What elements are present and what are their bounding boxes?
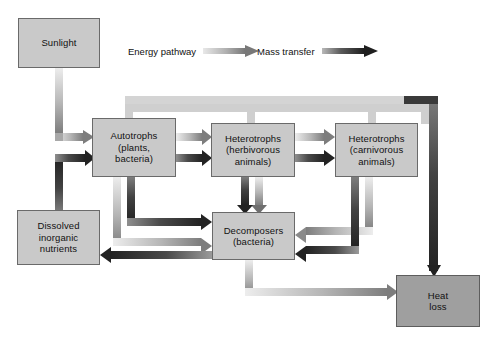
node-herbivores-line-0: Heterotrophs xyxy=(225,133,281,145)
arrow-autotrophs-to-herbivores-energy xyxy=(176,129,212,145)
arrow-herbivores-to-carnivores-energy xyxy=(295,129,335,145)
node-nutrients-line-1: inorganic xyxy=(39,232,78,244)
arrow-autotrophs-to-herbivores-mass xyxy=(176,150,212,166)
node-nutrients-line-0: Dissolved xyxy=(37,220,79,232)
node-decomposers[interactable]: Decomposers (bacteria) xyxy=(212,212,295,260)
node-sunlight-line-0: Sunlight xyxy=(41,37,76,49)
arrow-herbivores-energy-riser xyxy=(247,104,255,124)
node-heat-loss[interactable]: Heat loss xyxy=(396,275,480,327)
node-autotrophs-line-2: bacteria) xyxy=(115,153,153,165)
arrow-sunlight-to-autotrophs xyxy=(55,68,94,144)
legend-mass-arrow-icon xyxy=(322,44,380,58)
legend-mass-transfer: Mass transfer xyxy=(257,44,380,58)
node-heterotrophs-herbivorous[interactable]: Heterotrophs (herbivorous animals) xyxy=(211,123,295,177)
node-sunlight[interactable]: Sunlight xyxy=(18,18,100,68)
node-decomposers-line-1: (bacteria) xyxy=(233,236,274,248)
arrow-carnivores-to-decomposers-mass xyxy=(295,177,359,262)
ecosystem-energy-flow-diagram: Sunlight Autotrophs (plants, bacteria) H… xyxy=(0,0,490,348)
arrow-herbivores-to-decomposers-mass xyxy=(237,177,253,214)
arrow-decomposers-to-heatloss-energy xyxy=(245,260,398,300)
node-heatloss-line-1: loss xyxy=(429,301,446,313)
arrow-herbivores-to-carnivores-mass xyxy=(295,150,335,166)
top-energy-bus xyxy=(125,96,438,104)
node-nutrients-line-2: nutrients xyxy=(40,243,77,255)
legend-energy-label: Energy pathway xyxy=(128,46,196,57)
arrow-autotrophs-to-decomposers-mass xyxy=(127,177,212,230)
arrow-nutrients-to-autotrophs-mass xyxy=(55,150,95,212)
arrow-carnivores-to-decomposers-energy xyxy=(295,177,373,243)
node-autotrophs-line-0: Autotrophs xyxy=(111,130,158,142)
node-heterotrophs-carnivorous[interactable]: Heterotrophs (carnivorous animals) xyxy=(335,123,418,177)
arrow-decomposers-to-nutrients-mass xyxy=(100,247,212,263)
node-carnivores-line-0: Heterotrophs xyxy=(348,133,404,145)
node-autotrophs-line-1: (plants, xyxy=(118,142,150,154)
node-herbivores-line-1: (herbivorous xyxy=(226,144,280,156)
node-carnivores-line-1: (carnivorous xyxy=(350,144,403,156)
legend-energy-arrow-icon xyxy=(203,44,261,58)
arrow-carnivores-energy-riser xyxy=(368,104,376,124)
node-autotrophs[interactable]: Autotrophs (plants, bacteria) xyxy=(92,118,176,177)
node-decomposers-line-0: Decomposers xyxy=(224,225,284,237)
node-carnivores-line-2: animals) xyxy=(358,156,395,168)
node-heatloss-line-0: Heat xyxy=(428,290,448,302)
legend-mass-label: Mass transfer xyxy=(257,46,315,57)
legend-energy-pathway: Energy pathway xyxy=(128,44,261,58)
node-herbivores-line-2: animals) xyxy=(235,156,272,168)
arrow-energy-bus-to-heatloss xyxy=(427,96,441,277)
arrow-herbivores-to-decomposers-energy xyxy=(251,177,267,214)
node-dissolved-inorganic-nutrients[interactable]: Dissolved inorganic nutrients xyxy=(17,210,100,265)
